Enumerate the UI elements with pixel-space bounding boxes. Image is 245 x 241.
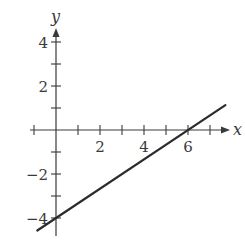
y-tick-label-2: 2 (38, 78, 48, 96)
x-axis-label: x (233, 120, 242, 139)
y-axis-label: y (50, 7, 61, 26)
coordinate-plane: 2 4 6 4 2 −2 −4 x y (0, 0, 245, 241)
x-tick-label-4: 4 (139, 138, 149, 156)
x-tick-label-6: 6 (183, 138, 193, 156)
x-axis-arrow-icon (221, 127, 230, 134)
data-line (37, 105, 225, 230)
x-tick-label-2: 2 (95, 138, 105, 156)
y-axis-arrow-icon (53, 28, 60, 37)
chart-container: 2 4 6 4 2 −2 −4 x y (0, 0, 245, 241)
y-tick-label-4: 4 (38, 34, 48, 52)
y-tick-label-neg2: −2 (26, 166, 48, 184)
